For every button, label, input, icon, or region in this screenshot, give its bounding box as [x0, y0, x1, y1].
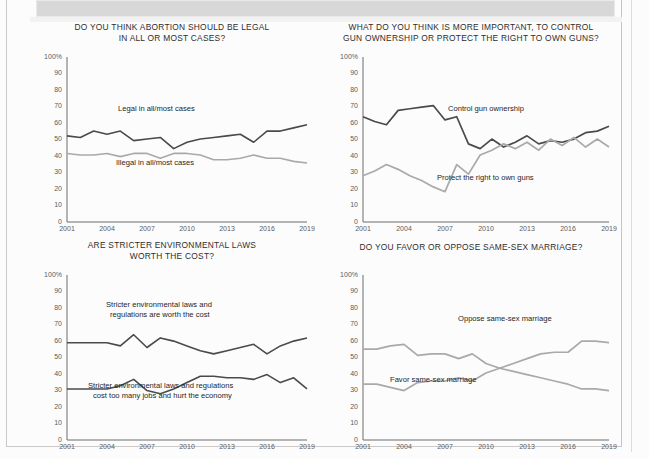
- chart-abortion-svg: [22, 22, 322, 238]
- xtick-2016: 2016: [554, 225, 582, 232]
- xtick-2019: 2019: [595, 443, 623, 450]
- xtick-2016: 2016: [554, 443, 582, 450]
- scanned-page: DO YOU THINK ABORTION SHOULD BE LEGAL IN…: [0, 0, 649, 458]
- chart-environment: ARE STRICTER ENVIRONMENTAL LAWS WORTH TH…: [22, 240, 322, 456]
- ytick-30: 30: [318, 168, 358, 175]
- ytick-80: 80: [318, 86, 358, 93]
- xtick-2010: 2010: [173, 225, 201, 232]
- xtick-2013: 2013: [513, 225, 541, 232]
- ytick-40: 40: [318, 370, 358, 377]
- xtick-2001: 2001: [53, 225, 81, 232]
- ytick-20: 20: [318, 185, 358, 192]
- ytick-30: 30: [22, 386, 62, 393]
- annotation-env-cost-jobs-line2: cost too many jobs and hurt the economy: [93, 391, 232, 401]
- xtick-2007: 2007: [431, 225, 459, 232]
- xtick-2001: 2001: [349, 443, 377, 450]
- ytick-10: 10: [318, 419, 358, 426]
- ytick-70: 70: [22, 102, 62, 109]
- ytick-70: 70: [318, 102, 358, 109]
- chart-environment-plot: [22, 240, 322, 456]
- ytick-50: 50: [318, 353, 358, 360]
- ytick-80: 80: [22, 86, 62, 93]
- series-worth-the-cost-line: [67, 335, 307, 354]
- ytick-30: 30: [318, 386, 358, 393]
- ytick-20: 20: [318, 403, 358, 410]
- xtick-2010: 2010: [472, 225, 500, 232]
- chart-abortion: DO YOU THINK ABORTION SHOULD BE LEGAL IN…: [22, 22, 322, 238]
- ytick-50: 50: [318, 135, 358, 142]
- ytick-0: 0: [318, 436, 358, 443]
- ytick-100: 100%: [318, 271, 358, 278]
- ytick-0: 0: [318, 218, 358, 225]
- ytick-20: 20: [22, 403, 62, 410]
- ytick-100: 100%: [22, 271, 62, 278]
- ytick-50: 50: [22, 135, 62, 142]
- xtick-2019: 2019: [595, 225, 623, 232]
- xtick-2010: 2010: [472, 443, 500, 450]
- ytick-100: 100%: [318, 53, 358, 60]
- xtick-2013: 2013: [513, 443, 541, 450]
- chart-guns-svg: [318, 22, 624, 238]
- ytick-90: 90: [22, 69, 62, 76]
- ytick-60: 60: [22, 337, 62, 344]
- annotation-protect-right-own-guns: Protect the right to own guns: [437, 173, 534, 183]
- ytick-10: 10: [22, 419, 62, 426]
- chart-environment-svg: [22, 240, 322, 456]
- xtick-2004: 2004: [390, 225, 418, 232]
- series-protect-guns-line: [363, 137, 609, 191]
- redacted-header-banner: [36, 0, 615, 17]
- ytick-90: 90: [318, 287, 358, 294]
- xtick-2001: 2001: [53, 443, 81, 450]
- chart-guns-plot: [318, 22, 624, 238]
- xtick-2010: 2010: [173, 443, 201, 450]
- chart-same-sex-marriage-plot: [318, 240, 624, 456]
- ytick-60: 60: [22, 119, 62, 126]
- ytick-30: 30: [22, 168, 62, 175]
- xtick-2001: 2001: [349, 225, 377, 232]
- annotation-legal-cases: Legal in all/most cases: [118, 104, 195, 114]
- ytick-40: 40: [22, 152, 62, 159]
- chart-same-sex-marriage-svg: [318, 240, 624, 456]
- xtick-2016: 2016: [253, 443, 281, 450]
- page-border-left: [6, 0, 7, 447]
- chart-abortion-plot: [22, 22, 322, 238]
- annotation-illegal-cases: Illegal in all/most cases: [116, 158, 194, 168]
- ytick-90: 90: [22, 287, 62, 294]
- xtick-2007: 2007: [133, 443, 161, 450]
- annotation-env-cost-jobs-line1: Stricter environmental laws and regulati…: [88, 381, 233, 391]
- ytick-40: 40: [22, 370, 62, 377]
- ytick-70: 70: [22, 320, 62, 327]
- annotation-env-worth-cost-line1: Stricter environmental laws and: [106, 300, 212, 310]
- xtick-2004: 2004: [390, 443, 418, 450]
- annotation-env-worth-cost-line2: regulations are worth the cost: [110, 310, 210, 320]
- xtick-2013: 2013: [213, 443, 241, 450]
- chart-guns: WHAT DO YOU THINK IS MORE IMPORTANT, TO …: [318, 22, 624, 238]
- ytick-90: 90: [318, 69, 358, 76]
- xtick-2013: 2013: [213, 225, 241, 232]
- ytick-70: 70: [318, 320, 358, 327]
- ytick-10: 10: [22, 201, 62, 208]
- xtick-2007: 2007: [431, 443, 459, 450]
- ytick-80: 80: [22, 304, 62, 311]
- chart-same-sex-marriage-axes: [363, 275, 609, 440]
- xtick-2019: 2019: [293, 443, 321, 450]
- ytick-80: 80: [318, 304, 358, 311]
- annotation-control-gun-ownership: Control gun ownership: [448, 104, 524, 114]
- ytick-50: 50: [22, 353, 62, 360]
- ytick-20: 20: [22, 185, 62, 192]
- series-legal-line: [67, 125, 307, 149]
- chart-abortion-axes: [67, 57, 307, 222]
- ytick-0: 0: [22, 436, 62, 443]
- chart-same-sex-marriage: DO YOU FAVOR OR OPPOSE SAME-SEX MARRIAGE…: [318, 240, 624, 456]
- xtick-2019: 2019: [293, 225, 321, 232]
- ytick-10: 10: [318, 201, 358, 208]
- ytick-60: 60: [318, 337, 358, 344]
- page-outer-border-right: [631, 0, 632, 452]
- annotation-oppose-same-sex-marriage: Oppose same-sex marriage: [458, 314, 552, 324]
- xtick-2007: 2007: [133, 225, 161, 232]
- ytick-0: 0: [22, 218, 62, 225]
- xtick-2016: 2016: [253, 225, 281, 232]
- xtick-2004: 2004: [93, 225, 121, 232]
- annotation-favor-same-sex-marriage: Favor same-sex marriage: [390, 375, 477, 385]
- ytick-100: 100%: [22, 53, 62, 60]
